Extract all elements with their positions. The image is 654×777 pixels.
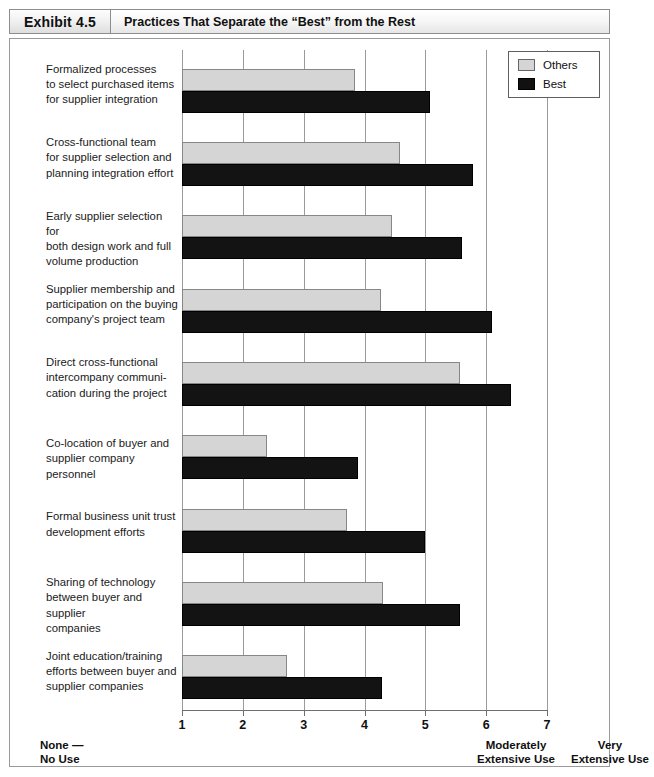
bar-others: [182, 69, 355, 91]
bar-best: [182, 164, 473, 186]
bar-best: [182, 91, 430, 113]
x-axis-tick-label: 3: [289, 718, 319, 732]
bar-others: [182, 289, 381, 311]
x-axis-tick: [425, 710, 426, 716]
bar-others: [182, 509, 347, 531]
bar-best: [182, 457, 358, 479]
bar-others: [182, 142, 400, 164]
category-label: Formal business unit trust development e…: [46, 509, 178, 539]
bar-best: [182, 604, 460, 626]
chart-legend: Others Best: [508, 51, 600, 98]
category-label: Sharing of technology between buyer and …: [46, 575, 178, 636]
x-axis-tick-label: 4: [350, 718, 380, 732]
bar-others: [182, 215, 392, 237]
x-axis-tick: [365, 710, 366, 716]
category-label: Direct cross-functional intercompany com…: [46, 355, 178, 401]
bar-others: [182, 435, 267, 457]
x-axis-tick-label: 6: [471, 718, 501, 732]
x-axis-tick: [243, 710, 244, 716]
bar-best: [182, 531, 425, 553]
legend-item-best: Best: [518, 78, 590, 90]
gridline: [547, 50, 548, 710]
x-axis-tick-label: 7: [532, 718, 562, 732]
bar-others: [182, 655, 287, 677]
legend-swatch-others-icon: [518, 59, 535, 71]
x-axis-tick: [304, 710, 305, 716]
legend-label-best: Best: [543, 78, 566, 90]
x-axis-tick-label: 2: [228, 718, 258, 732]
legend-item-others: Others: [518, 59, 590, 71]
bar-others: [182, 362, 460, 384]
category-label: Formalized processes to select purchased…: [46, 62, 178, 108]
category-label: Early supplier selection for both design…: [46, 209, 178, 270]
x-axis-tick-label: 5: [410, 718, 440, 732]
legend-label-others: Others: [543, 59, 578, 71]
category-label: Supplier membership and participation on…: [46, 282, 178, 328]
x-axis-tick: [486, 710, 487, 716]
bar-best: [182, 677, 382, 699]
x-axis-tick: [547, 710, 548, 716]
legend-swatch-best-icon: [518, 78, 535, 90]
bar-best: [182, 237, 462, 259]
category-label: Joint education/training efforts between…: [46, 649, 178, 695]
bar-best: [182, 311, 492, 333]
axis-caption-high: Very Extensive Use: [520, 738, 654, 766]
x-axis-tick-label: 1: [167, 718, 197, 732]
x-axis-tick: [182, 710, 183, 716]
category-label: Co-location of buyer and supplier compan…: [46, 436, 178, 482]
category-label: Cross-functional team for supplier selec…: [46, 135, 178, 181]
bar-others: [182, 582, 383, 604]
bar-best: [182, 384, 511, 406]
axis-caption-low: None — No Use: [40, 738, 83, 766]
gridline: [486, 50, 487, 710]
